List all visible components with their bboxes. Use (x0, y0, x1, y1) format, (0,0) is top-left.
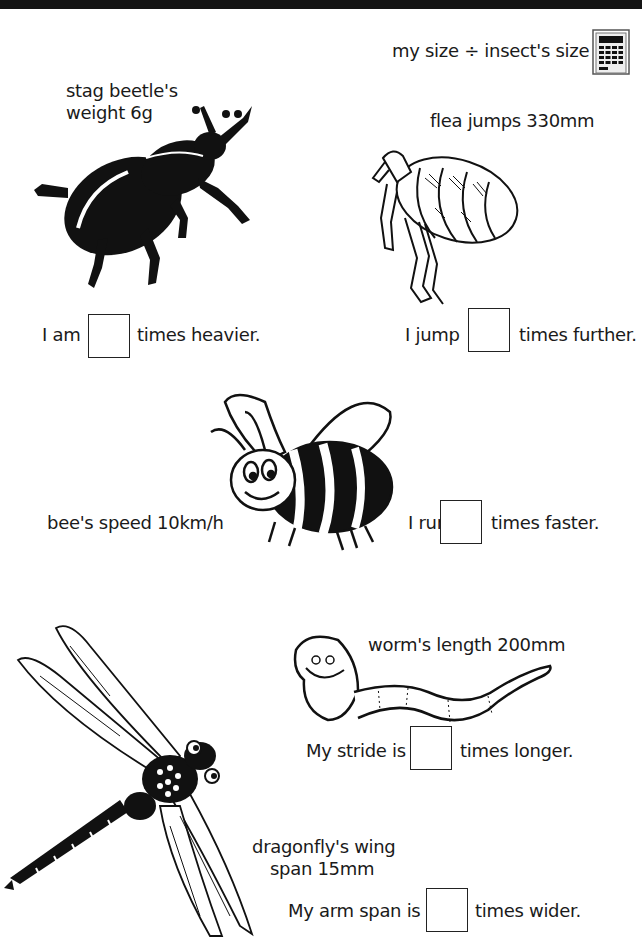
beetle-prefix: I am (42, 324, 80, 346)
flea-prefix: I jump (405, 324, 460, 346)
worm-fact: worm's length 200mm (368, 634, 565, 656)
bee-answer-box[interactable] (440, 500, 482, 544)
worm-answer-box[interactable] (410, 726, 452, 770)
flea-fact: flea jumps 330mm (430, 110, 594, 132)
beetle-answer-box[interactable] (88, 314, 130, 358)
calculator-icon (592, 29, 630, 75)
bee-fact: bee's speed 10km/h (47, 512, 224, 534)
flea-suffix: times further. (519, 324, 637, 346)
calculation-hint: my size ÷ insect's size (392, 40, 589, 62)
bee-illustration (205, 392, 400, 552)
dragonfly-illustration (0, 616, 280, 938)
beetle-suffix: times heavier. (137, 324, 260, 346)
top-banner (0, 0, 642, 9)
worm-prefix: My stride is (306, 740, 406, 762)
flea-illustration (365, 138, 525, 308)
worm-suffix: times longer. (460, 740, 573, 762)
bee-suffix: times faster. (491, 512, 599, 534)
dragonfly-suffix: times wider. (475, 900, 581, 922)
dragonfly-fact-line1: dragonfly's wing (252, 836, 396, 858)
dragonfly-fact-line2: span 15mm (270, 858, 374, 880)
flea-answer-box[interactable] (468, 308, 510, 352)
dragonfly-prefix: My arm span is (288, 900, 420, 922)
stag-beetle-illustration (28, 88, 258, 298)
dragonfly-answer-box[interactable] (426, 888, 468, 932)
